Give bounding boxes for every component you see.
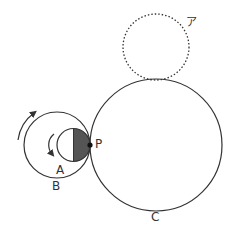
label-dotted-circle: ア <box>186 17 197 28</box>
point-p <box>87 142 92 147</box>
rotation-arrow-b-icon <box>18 113 34 140</box>
circle-a-prime-dotted <box>123 14 189 80</box>
circle-c <box>90 79 222 211</box>
label-a: A <box>56 164 64 176</box>
diagram: A B P C ア <box>0 0 236 236</box>
label-b: B <box>52 180 60 192</box>
label-c: C <box>151 211 159 223</box>
diagram-canvas <box>0 0 236 236</box>
label-p: P <box>95 138 102 150</box>
rotation-arrow-a-icon <box>49 134 54 154</box>
